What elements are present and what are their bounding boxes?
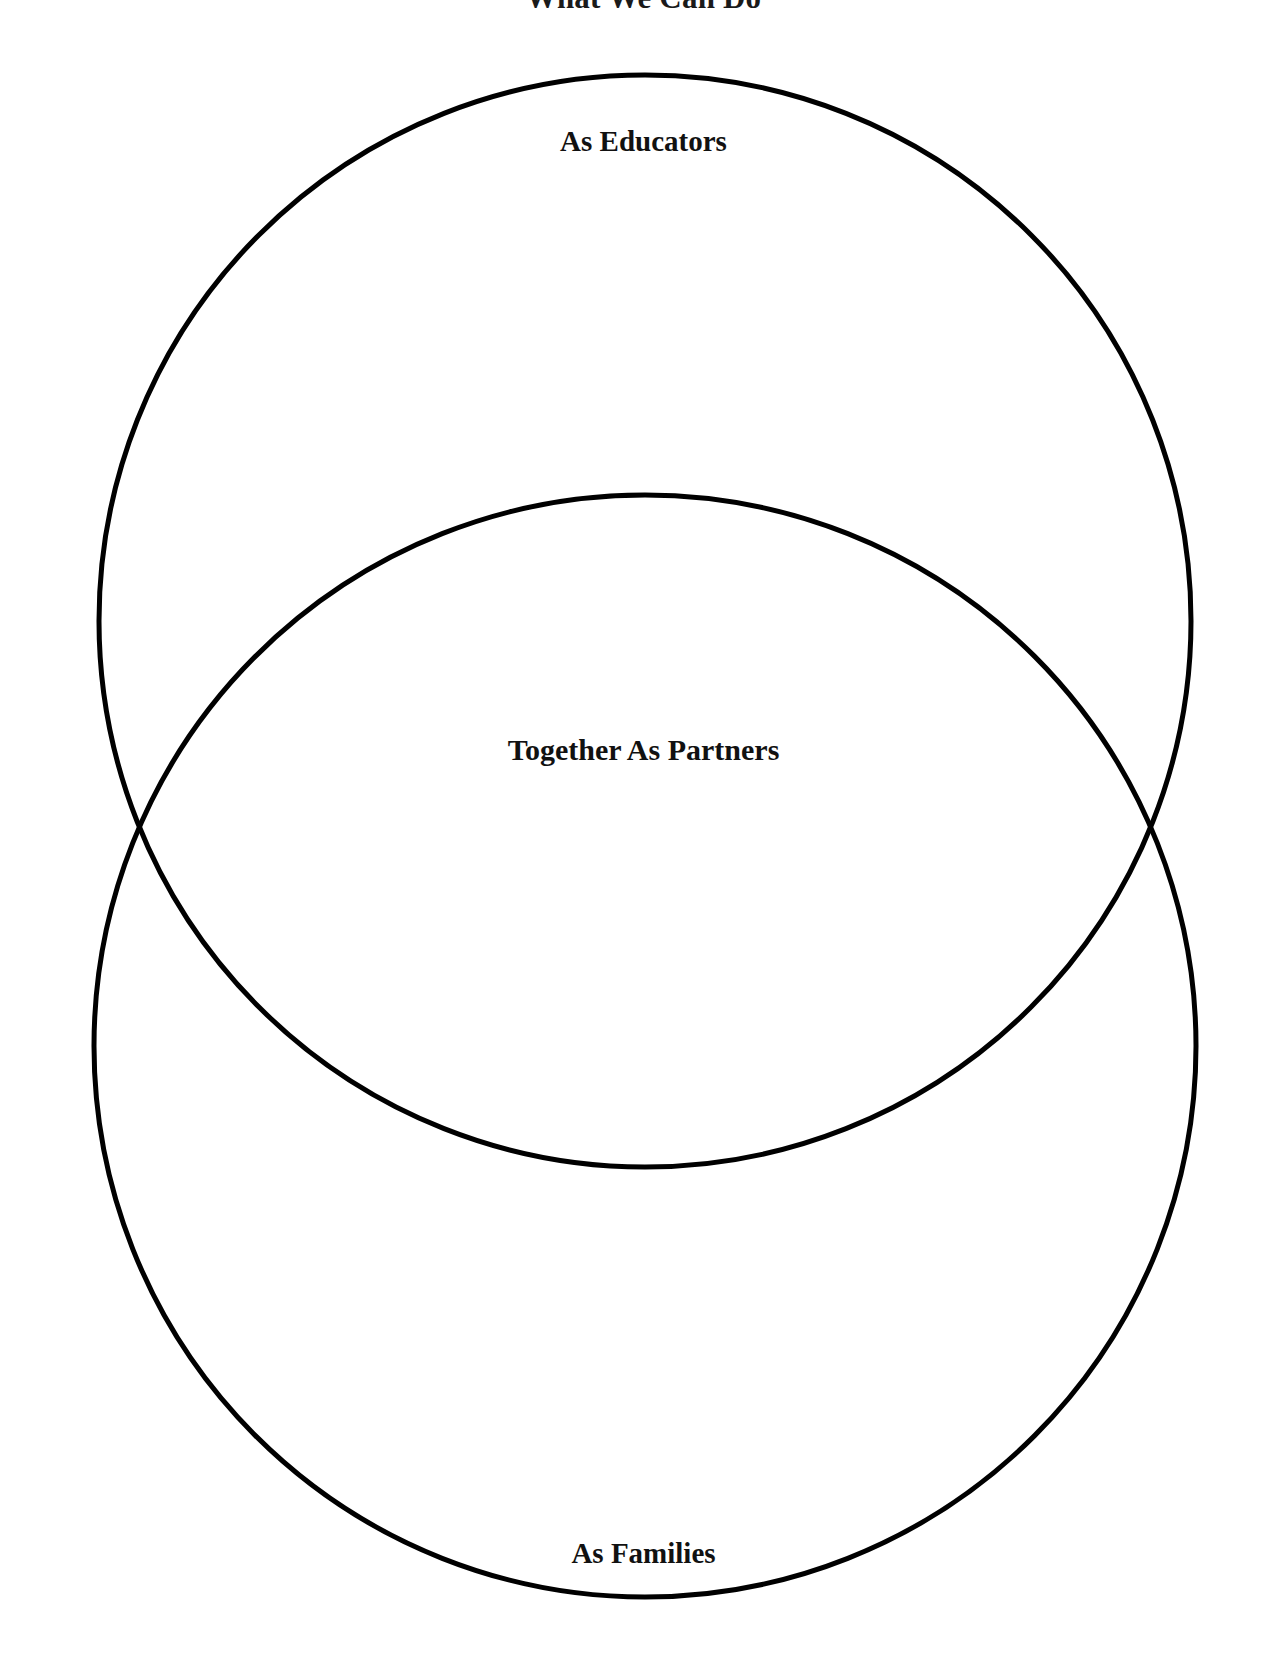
label-as-educators: As Educators xyxy=(0,124,1287,158)
upper-circle-educators xyxy=(99,75,1191,1167)
label-together-as-partners: Together As Partners xyxy=(0,732,1287,768)
lower-circle-families xyxy=(94,495,1196,1597)
venn-diagram-page: What We Can Do As Educators Together As … xyxy=(0,0,1287,1656)
label-as-families: As Families xyxy=(0,1536,1287,1570)
venn-diagram-graphic xyxy=(0,0,1287,1656)
